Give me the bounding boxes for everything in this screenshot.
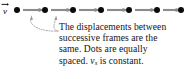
motion-dot-3 bbox=[70, 7, 76, 13]
caption-line-4: spaced. vs is constant. bbox=[59, 55, 188, 69]
motion-dot-4 bbox=[98, 7, 104, 13]
motion-diagram-figure: v bbox=[0, 0, 188, 79]
velocity-vector-label: v bbox=[1, 3, 10, 16]
caption-line-3: same. Dots are equally bbox=[59, 43, 188, 54]
caption-line-4-prefix: spaced. bbox=[59, 55, 90, 66]
motion-dot-7 bbox=[178, 7, 184, 13]
caption-line-4-suffix: is constant. bbox=[97, 55, 143, 66]
motion-dot-5 bbox=[126, 7, 132, 13]
motion-dot-1 bbox=[14, 7, 20, 13]
velocity-letter: v bbox=[1, 5, 9, 18]
motion-diagram-row: v bbox=[0, 0, 188, 20]
caption-line-2: successive frames are the bbox=[59, 32, 188, 43]
motion-dot-6 bbox=[154, 7, 160, 13]
motion-dot-2 bbox=[42, 7, 48, 13]
caption-line-1: The displacements between bbox=[59, 21, 188, 32]
caption-text-block: The displacements between successive fra… bbox=[59, 21, 188, 69]
